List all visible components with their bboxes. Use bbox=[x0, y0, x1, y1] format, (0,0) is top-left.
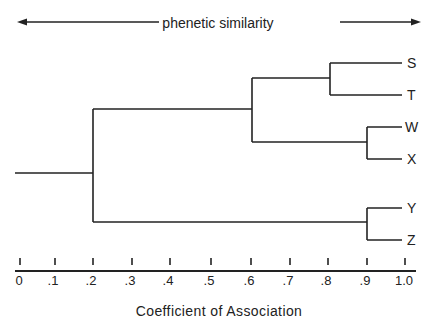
tick-label: .7 bbox=[283, 274, 294, 287]
tick-label: .6 bbox=[244, 274, 255, 287]
axis-ticks bbox=[20, 258, 405, 265]
x-axis-label: Coefficient of Association bbox=[0, 303, 438, 319]
leaf-label-s: S bbox=[407, 56, 416, 70]
tick-label: 0 bbox=[15, 274, 22, 287]
tick-label: 1.0 bbox=[395, 274, 413, 287]
leaf-label-z: Z bbox=[407, 233, 416, 247]
leaf-label-y: Y bbox=[407, 201, 416, 215]
tick-label: .2 bbox=[86, 274, 97, 287]
leaf-label-w: W bbox=[405, 120, 418, 134]
leaf-label-x: X bbox=[407, 152, 416, 166]
dendrogram-canvas bbox=[0, 0, 438, 329]
tick-label: .8 bbox=[321, 274, 332, 287]
tick-label: .4 bbox=[163, 274, 174, 287]
tick-label: .1 bbox=[48, 274, 59, 287]
leaf-label-t: T bbox=[407, 88, 416, 102]
tick-label: .9 bbox=[360, 274, 371, 287]
tick-label: .5 bbox=[204, 274, 215, 287]
tick-label: .3 bbox=[125, 274, 136, 287]
chart-title: phenetic similarity bbox=[0, 15, 438, 31]
